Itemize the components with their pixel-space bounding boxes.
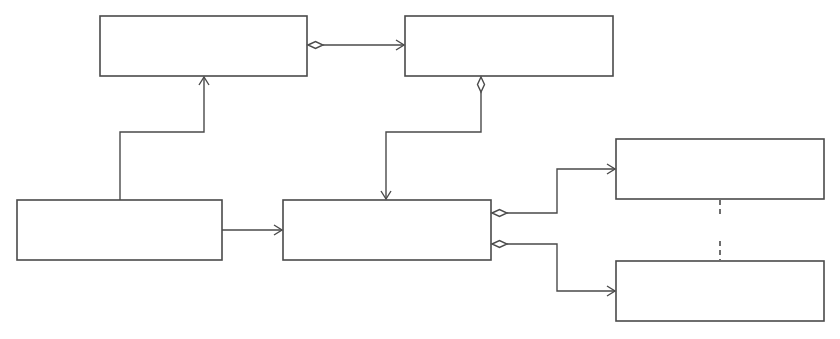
class-box: [283, 200, 491, 260]
connector-line: [120, 77, 204, 200]
edge-center-to-right-upper: [492, 164, 615, 217]
class-box: [405, 16, 613, 76]
edge-top-left-to-top-right: [308, 40, 404, 50]
class-box: [100, 16, 307, 76]
edge-bottom-left-to-top-left: [120, 77, 209, 200]
class-box: [616, 139, 824, 199]
aggregation-diamond-icon: [492, 241, 507, 248]
node-right-lower[interactable]: [616, 261, 824, 321]
node-bottom-left[interactable]: [17, 200, 222, 260]
connector-line: [507, 244, 615, 291]
class-diagram: [0, 0, 840, 339]
aggregation-diamond-icon: [492, 210, 507, 217]
edge-bottom-left-to-center: [222, 225, 282, 235]
class-box: [17, 200, 222, 260]
node-top-left[interactable]: [100, 16, 307, 76]
node-center[interactable]: [283, 200, 491, 260]
connector-line: [386, 92, 481, 199]
edge-top-right-to-center: [381, 77, 485, 199]
aggregation-diamond-icon: [308, 42, 323, 49]
aggregation-diamond-icon: [478, 77, 485, 92]
class-box: [616, 261, 824, 321]
connector-line: [507, 169, 615, 213]
edge-center-to-right-lower: [492, 241, 615, 297]
node-top-right[interactable]: [405, 16, 613, 76]
node-right-upper[interactable]: [616, 139, 824, 199]
